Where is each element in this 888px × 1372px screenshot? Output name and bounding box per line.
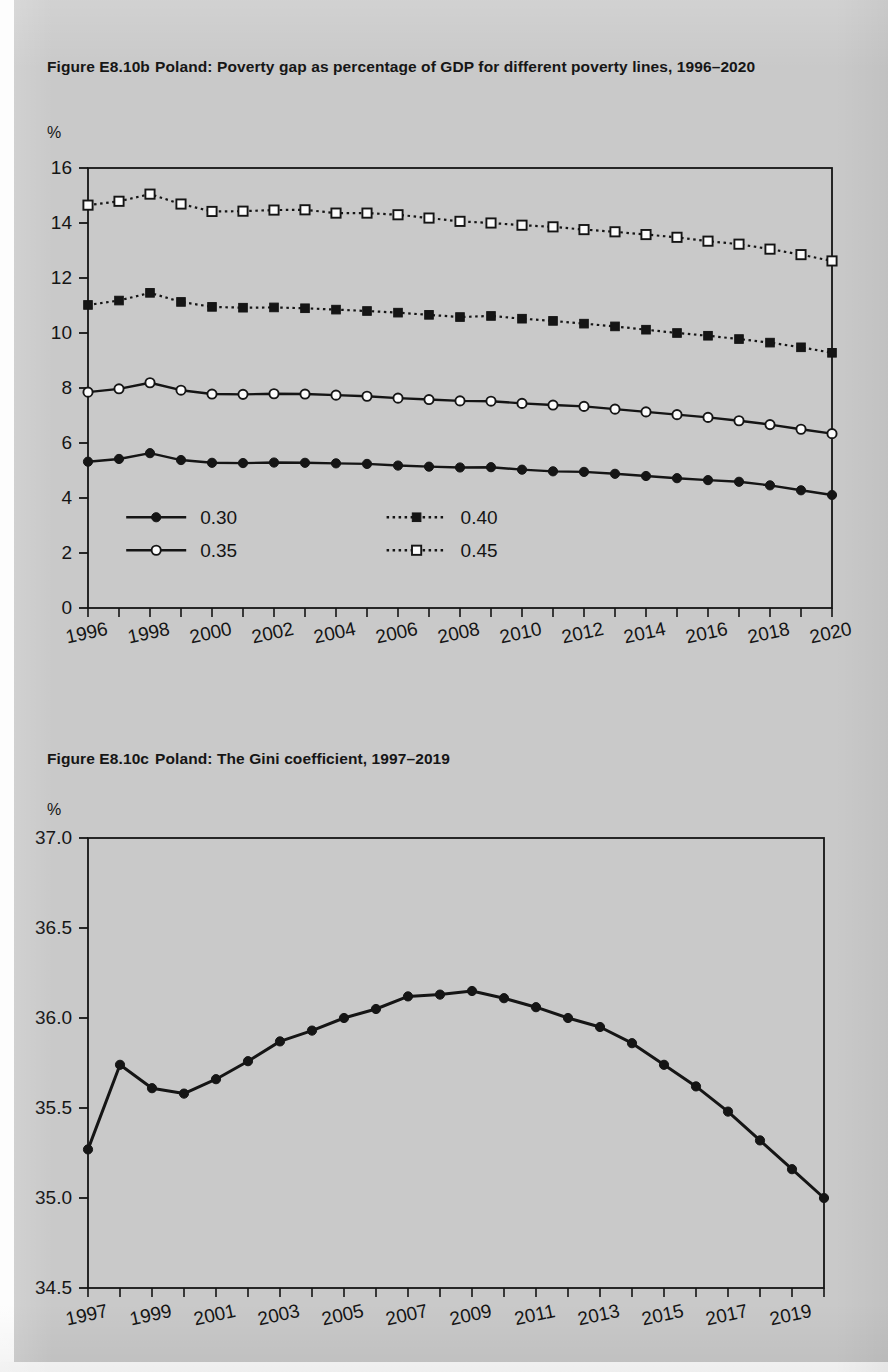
data-point-marker: [641, 230, 650, 239]
data-point-marker: [672, 474, 681, 483]
y-axis-tick-label: 14: [51, 212, 73, 233]
x-axis-tick-label: 2017: [704, 1300, 750, 1329]
data-point-marker: [827, 256, 836, 265]
y-axis-tick-label: 34.5: [35, 1277, 72, 1298]
series-line: [88, 453, 832, 495]
figure-c-chart: 34.535.035.536.036.537.01997199920012003…: [0, 820, 888, 1360]
data-point-marker: [176, 455, 185, 464]
data-point-marker: [797, 343, 806, 352]
x-axis-tick-label: 2013: [576, 1300, 622, 1329]
data-point-marker: [611, 322, 620, 331]
data-point-marker: [115, 1060, 124, 1069]
data-point-marker: [734, 240, 743, 249]
legend: 0.300.350.400.45: [126, 507, 497, 561]
x-axis-tick-label: 2007: [384, 1300, 430, 1329]
data-point-marker: [145, 378, 154, 387]
data-point-marker: [146, 289, 155, 298]
x-axis-tick-label: 2018: [746, 618, 792, 647]
data-point-marker: [673, 329, 682, 338]
data-point-marker: [83, 457, 92, 466]
data-point-marker: [456, 313, 465, 322]
data-point-marker: [331, 209, 340, 218]
data-point-marker: [332, 305, 341, 314]
data-point-marker: [723, 1107, 732, 1116]
data-point-marker: [610, 227, 619, 236]
data-point-marker: [703, 237, 712, 246]
data-point-marker: [393, 210, 402, 219]
data-point-marker: [659, 1060, 668, 1069]
data-point-marker: [486, 218, 495, 227]
data-point-marker: [672, 233, 681, 242]
data-point-marker: [211, 1075, 220, 1084]
data-point-marker: [487, 312, 496, 321]
data-point-marker: [819, 1193, 828, 1202]
data-point-marker: [734, 416, 743, 425]
y-axis-tick-label: 8: [61, 377, 72, 398]
data-point-marker: [595, 1022, 604, 1031]
x-axis-tick-label: 2016: [684, 618, 730, 647]
data-point-marker: [435, 990, 444, 999]
series-line: [88, 194, 832, 261]
data-point-marker: [580, 319, 589, 328]
data-point-marker: [703, 476, 712, 485]
x-axis-tick-label: 2012: [560, 618, 606, 647]
data-point-marker: [393, 461, 402, 470]
legend-label: 0.40: [461, 507, 498, 528]
data-point-marker: [145, 190, 154, 199]
data-point-marker: [83, 1145, 92, 1154]
data-point-marker: [114, 197, 123, 206]
x-axis-tick-label: 2015: [640, 1300, 686, 1329]
data-point-marker: [579, 225, 588, 234]
figure-c-title: Figure E8.10cPoland: The Gini coefficien…: [47, 748, 847, 769]
series-line: [88, 991, 824, 1198]
data-point-marker: [531, 1003, 540, 1012]
y-axis-tick-label: 35.5: [35, 1097, 72, 1118]
series-0.45: [83, 190, 836, 266]
data-point-marker: [424, 213, 433, 222]
data-point-marker: [176, 386, 185, 395]
data-point-marker: [393, 394, 402, 403]
data-point-marker: [239, 303, 248, 312]
data-point-marker: [179, 1089, 188, 1098]
page-bottom-margin: [0, 1362, 888, 1372]
data-point-marker: [331, 459, 340, 468]
x-axis-tick-label: 2005: [320, 1300, 366, 1329]
data-point-marker: [765, 420, 774, 429]
y-axis-tick-label: 0: [61, 597, 72, 618]
data-point-marker: [549, 317, 558, 326]
data-point-marker: [412, 546, 421, 555]
data-point-marker: [499, 994, 508, 1003]
plot-frame: [88, 838, 824, 1288]
figure-b-chart: 0246810121416199619982000200220042006200…: [0, 140, 888, 665]
data-point-marker: [243, 1057, 252, 1066]
x-axis-tick-label: 2011: [512, 1300, 556, 1329]
data-point-marker: [517, 399, 526, 408]
data-point-marker: [787, 1165, 796, 1174]
data-point-marker: [827, 490, 836, 499]
data-point-marker: [641, 407, 650, 416]
data-point-marker: [455, 463, 464, 472]
data-point-marker: [703, 413, 712, 422]
data-point-marker: [563, 1013, 572, 1022]
y-axis-tick-label: 36.5: [35, 917, 72, 938]
y-axis-tick-label: 12: [51, 267, 72, 288]
data-point-marker: [796, 425, 805, 434]
x-axis-tick-label: 2000: [188, 618, 234, 647]
data-point-marker: [145, 449, 154, 458]
data-point-marker: [548, 400, 557, 409]
data-point-marker: [403, 992, 412, 1001]
data-point-marker: [371, 1004, 380, 1013]
figure-b-title-text: Poland: Poverty gap as percentage of GDP…: [155, 56, 795, 77]
y-axis-tick-label: 10: [51, 322, 72, 343]
x-axis-tick-label: 1999: [128, 1300, 174, 1329]
data-point-marker: [548, 222, 557, 231]
data-point-marker: [269, 205, 278, 214]
data-point-marker: [828, 349, 837, 358]
data-point-marker: [147, 1084, 156, 1093]
data-point-marker: [307, 1026, 316, 1035]
data-point-marker: [83, 388, 92, 397]
data-point-marker: [548, 467, 557, 476]
data-point-marker: [755, 1136, 764, 1145]
y-axis-tick-label: 4: [61, 487, 72, 508]
x-axis-tick-label: 2010: [498, 618, 544, 647]
